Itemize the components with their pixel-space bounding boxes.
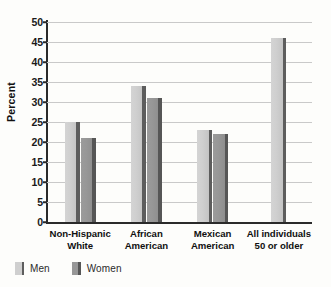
bar-men xyxy=(131,86,146,222)
bar-women xyxy=(147,98,162,222)
gridline xyxy=(47,222,312,223)
legend-swatch-women-icon xyxy=(72,262,81,275)
bar-men xyxy=(271,38,286,222)
y-axis-tick-label: 15 xyxy=(3,156,43,168)
bar-women xyxy=(81,138,96,222)
bar-chart-figure: 05101520253035404550 Percent Non-Hispani… xyxy=(0,0,331,287)
legend-label-men: Men xyxy=(30,263,50,274)
bar-group xyxy=(65,22,96,222)
bar-men xyxy=(65,122,80,222)
bar-women xyxy=(213,134,228,222)
legend-swatch-men-icon xyxy=(15,262,24,275)
bar-group xyxy=(271,22,286,222)
legend-item-women: Women xyxy=(72,262,122,275)
y-axis-tick-label: 50 xyxy=(3,16,43,28)
chart-legend: Men Women xyxy=(15,262,122,275)
bar-group xyxy=(197,22,228,222)
legend-label-women: Women xyxy=(87,263,122,274)
y-axis-tick-label: 5 xyxy=(3,196,43,208)
y-axis-title: Percent xyxy=(5,47,17,157)
y-axis-tick-label: 10 xyxy=(3,176,43,188)
legend-item-men: Men xyxy=(15,262,50,275)
plot-area xyxy=(47,22,312,222)
bar-group xyxy=(131,22,162,222)
y-axis-tick-label: 0 xyxy=(3,216,43,228)
bar-men xyxy=(197,130,212,222)
x-axis-category-label: All individuals50 or older xyxy=(238,228,320,251)
